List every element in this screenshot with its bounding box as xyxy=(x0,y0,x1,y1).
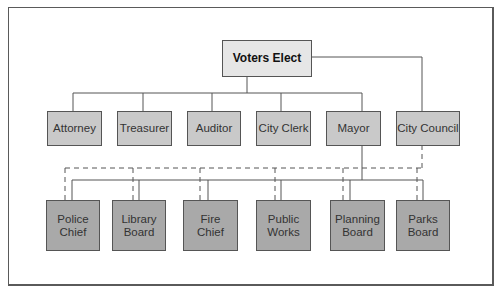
fire-chief-box: Fire Chief xyxy=(183,200,238,251)
city-council-box: City Council xyxy=(396,111,460,146)
auditor-label: Auditor xyxy=(196,122,232,135)
planning-board-box: Planning Board xyxy=(330,200,385,251)
library-board-box: Library Board xyxy=(112,200,166,251)
mayor-box: Mayor xyxy=(326,111,381,146)
treasurer-box: Treasurer xyxy=(117,111,172,146)
attorney-box: Attorney xyxy=(47,111,102,146)
fire-chief-label: Fire Chief xyxy=(197,213,224,239)
parks-board-box: Parks Board xyxy=(396,200,450,251)
library-board-label: Library Board xyxy=(121,213,156,239)
attorney-label: Attorney xyxy=(53,122,96,135)
mayor-label: Mayor xyxy=(338,122,370,135)
voters-elect-label: Voters Elect xyxy=(233,52,301,65)
city-clerk-box: City Clerk xyxy=(256,111,311,146)
auditor-box: Auditor xyxy=(187,111,241,146)
city-council-label: City Council xyxy=(397,122,458,135)
planning-board-label: Planning Board xyxy=(335,213,380,239)
public-works-label: Public Works xyxy=(267,213,299,239)
public-works-box: Public Works xyxy=(256,200,311,251)
treasurer-label: Treasurer xyxy=(120,122,169,135)
police-chief-label: Police Chief xyxy=(57,213,88,239)
parks-board-label: Parks Board xyxy=(408,213,439,239)
voters-elect-box: Voters Elect xyxy=(222,40,312,77)
police-chief-box: Police Chief xyxy=(46,200,100,251)
city-clerk-label: City Clerk xyxy=(259,122,309,135)
